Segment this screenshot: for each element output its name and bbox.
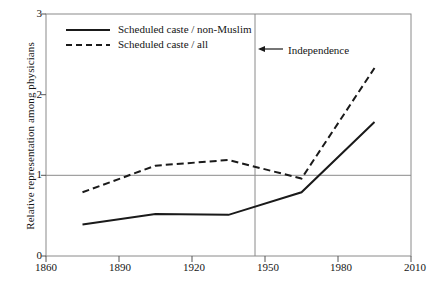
legend-label-scheduled-caste-non-muslim: Scheduled caste / non-Muslim: [118, 22, 252, 37]
left-arrow-icon: [258, 44, 284, 56]
series-line-scheduled-caste-all: [83, 68, 375, 192]
series-line-scheduled-caste-non-muslim: [83, 122, 375, 224]
annotation-independence: Independence: [258, 44, 349, 56]
legend-item-scheduled-caste-non-muslim: Scheduled caste / non-Muslim: [66, 22, 252, 37]
legend-swatch-solid-icon: [66, 25, 110, 35]
legend-item-scheduled-caste-all: Scheduled caste / all: [66, 37, 252, 52]
legend-swatch-dashed-icon: [66, 40, 110, 50]
legend: Scheduled caste / non-Muslim Scheduled c…: [66, 22, 252, 52]
chart-figure: Relative representation among physicians…: [0, 0, 432, 291]
legend-label-scheduled-caste-all: Scheduled caste / all: [118, 37, 208, 52]
annotation-independence-label: Independence: [288, 44, 349, 56]
